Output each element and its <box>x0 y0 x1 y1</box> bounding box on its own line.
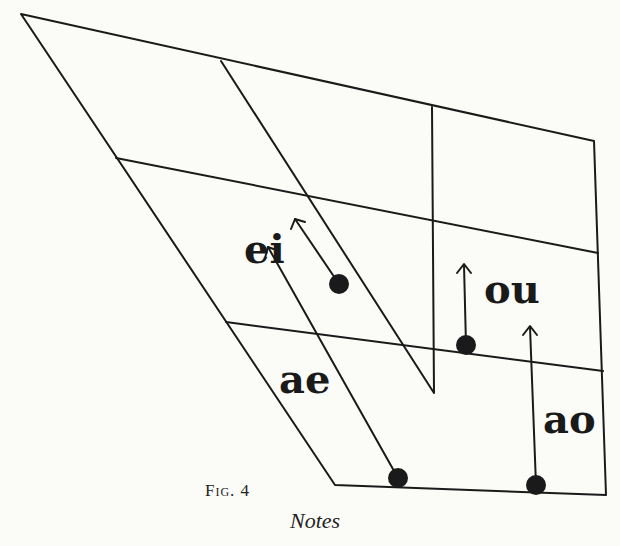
vowel-quadrilateral-diagram: ei ou ae ao <box>0 0 620 546</box>
arrow-ou <box>457 264 471 345</box>
vowel-chart-outline <box>21 14 606 495</box>
dot-ae <box>388 468 408 488</box>
dot-ei <box>329 274 349 294</box>
arrow-ao <box>523 326 537 485</box>
running-head: Notes <box>290 508 340 534</box>
label-ei: ei <box>244 225 285 272</box>
label-ao: ao <box>543 395 596 442</box>
arrow-ei <box>291 219 339 284</box>
dot-ou <box>456 335 476 355</box>
figure-caption: Fig. 4 <box>205 481 250 501</box>
dot-ao <box>526 475 546 495</box>
label-ou: ou <box>484 265 540 312</box>
label-ae: ae <box>279 355 330 402</box>
upper-mid-line <box>116 158 598 253</box>
